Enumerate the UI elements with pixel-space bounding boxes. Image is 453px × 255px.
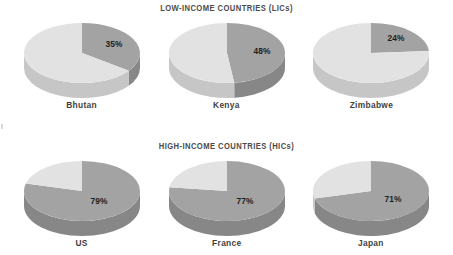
pie-country-label: Bhutan [67,100,98,110]
pie-country-label: Kenya [213,100,240,110]
pie-chart-kenya: 48%Kenya [159,17,295,127]
pie-row-low-income: 35%Bhutan48%Kenya24%Zimbabwe [0,17,453,127]
pie-graphic: 48% [159,17,295,99]
pie-chart-us: 79%US [14,155,150,255]
pie-country-label: Zimbabwe [349,100,393,110]
pie-chart-bhutan: 35%Bhutan [14,17,150,127]
pie-slice-share [371,23,429,53]
pie-graphic: 71% [303,155,439,237]
section-title-low-income: LOW-INCOME COUNTRIES (LICs) [18,3,435,13]
pie-graphic: 77% [159,155,295,237]
pie-chart-japan: 71%Japan [303,155,439,255]
pie-country-label: France [212,238,241,248]
pie-chart-zimbabwe: 24%Zimbabwe [303,17,439,127]
pie-slice-rest [169,161,227,191]
section-title-high-income: HIGH-INCOME COUNTRIES (HICs) [18,141,435,151]
pie-graphic: 35% [14,17,150,99]
pie-country-label: US [76,238,88,248]
pie-graphic: 24% [303,17,439,99]
pie-row-high-income: 79%US77%France71%Japan [0,155,453,255]
pie-graphic: 79% [14,155,150,237]
pie-chart-france: 77%France [159,155,295,255]
pie-country-label: Japan [358,238,384,248]
